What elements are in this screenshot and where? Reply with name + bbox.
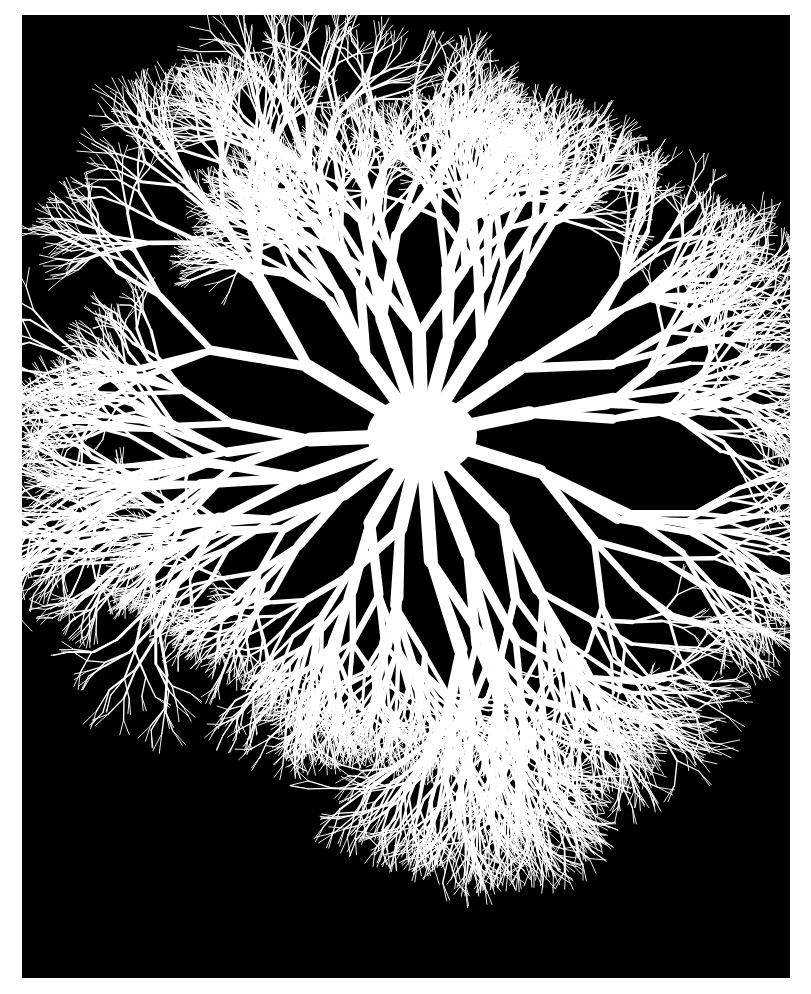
vascular-tree-graphic [22, 15, 790, 978]
lung-vasculature-image [22, 15, 790, 978]
